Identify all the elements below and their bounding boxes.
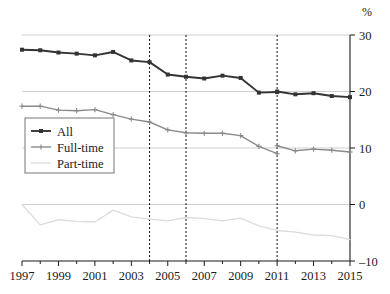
y-axis-tick-label: 20 xyxy=(359,85,372,99)
x-axis-tick-label: 2009 xyxy=(228,269,253,283)
data-point-marker xyxy=(202,77,206,81)
x-axis-tick-label: 1997 xyxy=(10,269,35,283)
x-axis-tick-label: 1999 xyxy=(46,269,71,283)
y-axis-unit-label: % xyxy=(362,5,372,19)
x-axis-tick-label: 2001 xyxy=(82,269,107,283)
y-axis-tick-label: –10 xyxy=(358,255,378,269)
data-point-marker xyxy=(56,51,60,55)
y-axis-tick-group xyxy=(350,35,355,261)
data-point-marker xyxy=(75,52,79,56)
data-point-marker xyxy=(129,58,133,62)
x-axis-tick-label: 2007 xyxy=(192,269,217,283)
data-point-marker xyxy=(239,76,243,80)
series-line-part-time-seg0 xyxy=(22,205,350,240)
x-axis-tick-group xyxy=(22,261,350,266)
legend-entry-label: All xyxy=(57,125,74,139)
x-axis-tick-label: 2011 xyxy=(265,269,290,283)
series-part-time xyxy=(22,205,350,240)
y-axis-label-group: 3020100–10 xyxy=(358,29,378,269)
data-point-marker xyxy=(93,53,97,57)
x-axis-tick-label: 2015 xyxy=(338,269,363,283)
y-axis-tick-label: 0 xyxy=(359,198,365,212)
data-point-marker xyxy=(330,94,334,98)
data-point-marker xyxy=(257,91,261,95)
data-point-marker xyxy=(148,60,152,64)
y-axis-tick-label: 30 xyxy=(359,29,372,43)
chart-container: 1997199920012003200520072009201120132015… xyxy=(0,0,390,294)
data-point-marker xyxy=(184,75,188,79)
x-axis-tick-label: 2013 xyxy=(301,269,326,283)
data-point-marker xyxy=(275,90,279,94)
chart-legend: AllFull-timePart-time xyxy=(25,118,114,173)
x-axis-label-group: 1997199920012003200520072009201120132015 xyxy=(10,269,363,283)
legend-entry-label: Full-time xyxy=(57,141,104,155)
line-chart: 1997199920012003200520072009201120132015… xyxy=(0,0,390,294)
data-point-marker xyxy=(312,91,316,95)
data-point-marker xyxy=(166,73,170,77)
data-point-marker xyxy=(38,48,42,52)
x-axis-tick-label: 2003 xyxy=(119,269,144,283)
y-axis-tick-label: 10 xyxy=(359,142,372,156)
legend-marker-swatch xyxy=(39,129,43,133)
data-point-marker xyxy=(20,48,24,52)
x-axis-tick-label: 2005 xyxy=(155,269,180,283)
data-point-marker xyxy=(111,50,115,54)
data-point-marker xyxy=(293,92,297,96)
data-point-marker xyxy=(220,74,224,78)
data-point-marker xyxy=(348,95,352,99)
legend-entry-label: Part-time xyxy=(57,157,104,171)
